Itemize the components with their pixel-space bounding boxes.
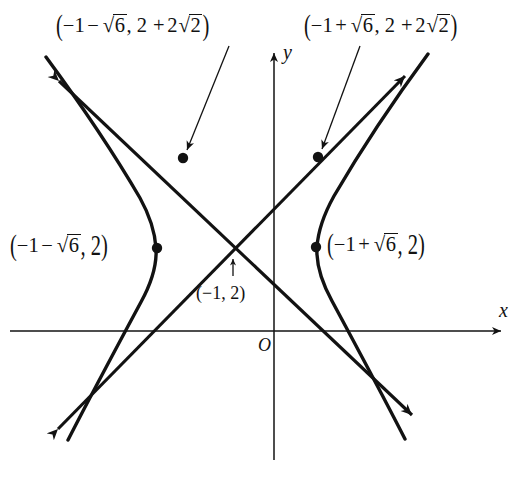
label-upper-left-radical-two: √2 — [177, 14, 202, 36]
label-upper-left-coefficient: 2 — [167, 14, 177, 36]
label-upper-right-open-paren: ( — [304, 10, 311, 40]
label-upper-right-point: (−1+√6, 2+2√2) — [304, 14, 457, 36]
point-left-vertex — [152, 243, 162, 253]
point-right-vertex — [311, 242, 321, 252]
label-left-vertex-radical-six: √6 — [56, 234, 81, 256]
hyperbola-figure: (−1−√6, 2+2√2) (−1+√6, 2+2√2) (−1−√6, 2)… — [0, 0, 519, 489]
label-right-vertex-close: , 2) — [398, 229, 425, 259]
label-right-vertex: (−1+√6, 2) — [327, 233, 425, 255]
point-upper-right-intersection — [313, 152, 323, 162]
label-upper-left-point: (−1−√6, 2+2√2) — [56, 14, 209, 36]
label-left-vertex-operator: − — [39, 234, 56, 256]
label-upper-left-radical-six: √6 — [102, 14, 127, 36]
leader-line-top-right — [322, 46, 360, 149]
label-upper-left-operator-two: + — [150, 14, 167, 36]
label-right-vertex-operator: + — [356, 233, 373, 255]
label-upper-right-radical-six: √6 — [350, 14, 375, 36]
y-axis-label: y — [283, 42, 292, 62]
label-upper-left-operator: − — [85, 14, 102, 36]
label-upper-right-operator-two: + — [398, 14, 415, 36]
point-upper-left-intersection — [178, 153, 188, 163]
label-upper-right-operator: + — [333, 14, 350, 36]
origin-label: O — [258, 336, 271, 354]
label-upper-right-x-term: −1 — [311, 14, 333, 36]
label-center-point: (−1, 2) — [196, 284, 245, 302]
label-upper-right-radical-two: √2 — [425, 14, 450, 36]
label-upper-left-y-lead: , 2 — [127, 14, 151, 36]
label-left-vertex-open-paren: ( — [10, 230, 17, 260]
x-axis-label: x — [499, 300, 508, 320]
label-upper-left-open-paren: ( — [56, 10, 63, 40]
label-left-vertex-x-term: −1 — [17, 234, 39, 256]
label-upper-left-close-paren: ) — [202, 10, 209, 40]
label-upper-left-x-term: −1 — [63, 14, 85, 36]
label-upper-right-y-lead: , 2 — [375, 14, 399, 36]
label-left-vertex: (−1−√6, 2) — [10, 234, 108, 256]
leader-line-top-left — [187, 46, 229, 150]
label-right-vertex-radical-six: √6 — [373, 233, 398, 255]
label-right-vertex-x-term: −1 — [334, 233, 356, 255]
label-left-vertex-close: , 2) — [81, 230, 108, 260]
label-right-vertex-open-paren: ( — [327, 229, 334, 259]
label-upper-right-close-paren: ) — [450, 10, 457, 40]
label-upper-right-coefficient: 2 — [415, 14, 425, 36]
